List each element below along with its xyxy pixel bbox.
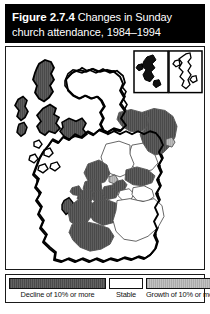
area-western-isles-uists (15, 96, 28, 120)
legend-label-growth: Growth of 10% or more (146, 289, 210, 300)
figure-title-line-2: church attendance, 1984–1994 (12, 26, 199, 39)
map-insets (134, 51, 202, 93)
legend-item-decline: Decline of 10% or more (9, 278, 106, 300)
legend-swatch-growth (146, 278, 210, 289)
legend-items: Decline of 10% or more Stable Growth of … (9, 278, 201, 300)
area-skye (37, 104, 60, 135)
figure-title-bar: Figure 2.7.4 Changes in Sunday church at… (5, 4, 205, 43)
figure-title-text-part-1: Changes in Sunday (75, 11, 172, 23)
legend-panel: Decline of 10% or more Stable Growth of … (5, 274, 205, 303)
legend-label-stable: Stable (109, 289, 143, 300)
area-western-isles-lewis-harris (33, 60, 54, 102)
figure-container: Figure 2.7.4 Changes in Sunday church at… (0, 0, 210, 314)
legend-swatch-decline (9, 278, 106, 289)
legend-item-growth: Growth of 10% or more (146, 278, 210, 300)
area-western-isles-barra (17, 122, 27, 136)
legend-swatch-stable (109, 278, 143, 289)
figure-title-line-1: Figure 2.7.4 Changes in Sunday (12, 7, 199, 26)
figure-number-label: Figure 2.7.4 (12, 11, 75, 23)
legend-label-decline: Decline of 10% or more (9, 289, 106, 300)
legend-item-stable: Stable (109, 278, 143, 300)
scotland-map (6, 47, 204, 269)
map-panel (5, 46, 205, 270)
